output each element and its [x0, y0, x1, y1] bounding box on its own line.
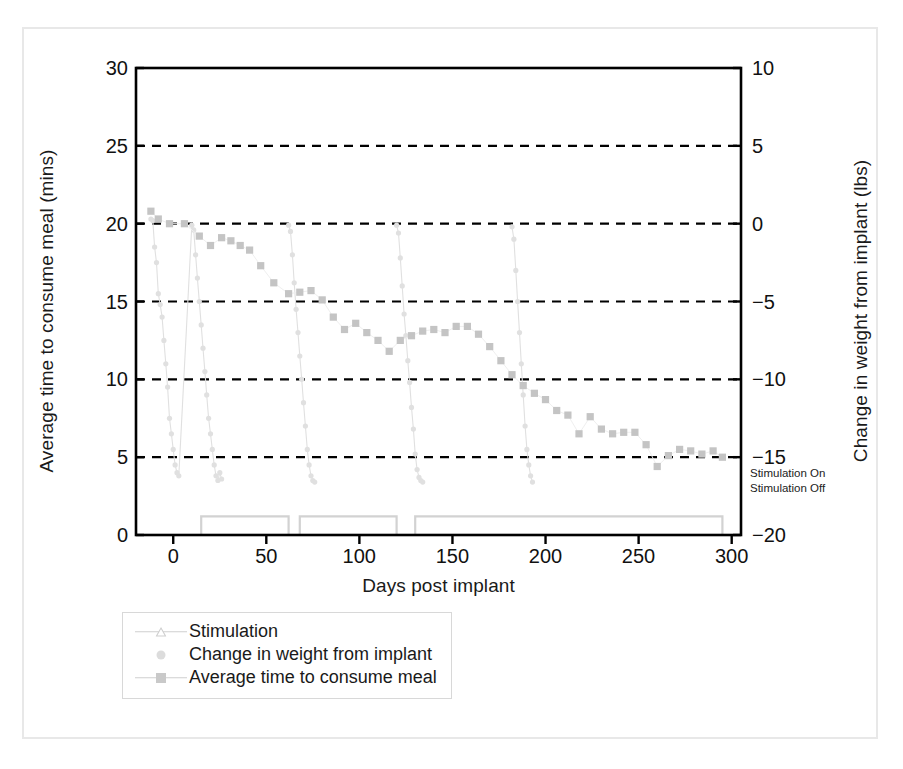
series-stimulation — [145, 516, 722, 535]
legend-label-stimulation: Stimulation — [189, 621, 278, 642]
figure-canvas: 30 25 20 15 10 5 0 10 5 0 −5 −10 −15 −20… — [0, 0, 903, 769]
y-axis-right-ticklabels: 10 5 0 −5 −10 −15 −20 — [752, 0, 812, 769]
ytick-right-0: 0 — [752, 212, 763, 235]
ytick-right-5: 5 — [752, 134, 763, 157]
square-icon — [133, 669, 189, 687]
y-axis-right-title: Change in weight from implant (lbs) — [850, 96, 872, 526]
ytick-right-10: 10 — [752, 57, 774, 80]
stimulation-state-annotation: Stimulation On Stimulation Off — [750, 466, 825, 496]
xtick-150: 150 — [436, 545, 469, 568]
ytick-left-5: 5 — [117, 446, 128, 469]
ytick-right-m10: −10 — [752, 368, 786, 391]
plot-wrapper: 30 25 20 15 10 5 0 10 5 0 −5 −10 −15 −20… — [0, 0, 903, 769]
x-axis-title: Days post implant — [136, 575, 741, 597]
legend-item-average-meal-time[interactable]: Average time to consume meal — [133, 666, 441, 689]
legend-item-change-in-weight[interactable]: Change in weight from implant — [133, 643, 441, 666]
xtick-300: 300 — [715, 545, 748, 568]
y-axis-left-title: Average time to consume meal (mins) — [36, 96, 58, 526]
series-change-in-weight — [148, 216, 535, 484]
xtick-0: 0 — [168, 545, 179, 568]
ytick-left-10: 10 — [106, 368, 128, 391]
xtick-100: 100 — [343, 545, 376, 568]
ytick-left-15: 15 — [106, 290, 128, 313]
triangle-up-icon — [133, 623, 189, 641]
x-axis-ticklabels: 0 50 100 150 200 250 300 — [0, 545, 903, 575]
ytick-right-m5: −5 — [752, 290, 775, 313]
ytick-right-m20: −20 — [752, 524, 786, 547]
stimulation-on-label: Stimulation On — [750, 466, 825, 481]
xtick-200: 200 — [529, 545, 562, 568]
gridlines-group — [136, 146, 741, 535]
xtick-250: 250 — [622, 545, 655, 568]
legend-label-change-in-weight: Change in weight from implant — [189, 644, 432, 665]
legend-label-average-meal-time: Average time to consume meal — [189, 667, 437, 688]
circle-icon — [133, 646, 189, 664]
ytick-left-20: 20 — [106, 212, 128, 235]
ytick-left-25: 25 — [106, 134, 128, 157]
xtick-50: 50 — [255, 545, 277, 568]
series-average-meal-time — [147, 208, 726, 471]
ytick-left-0: 0 — [117, 524, 128, 547]
y-axis-left-ticklabels: 30 25 20 15 10 5 0 — [72, 0, 128, 769]
legend-item-stimulation[interactable]: Stimulation — [133, 620, 441, 643]
stimulation-off-label: Stimulation Off — [750, 481, 825, 496]
ytick-left-30: 30 — [106, 57, 128, 80]
tickmarks-group — [136, 68, 741, 544]
chart-legend: Stimulation Change in weight from implan… — [122, 612, 452, 699]
